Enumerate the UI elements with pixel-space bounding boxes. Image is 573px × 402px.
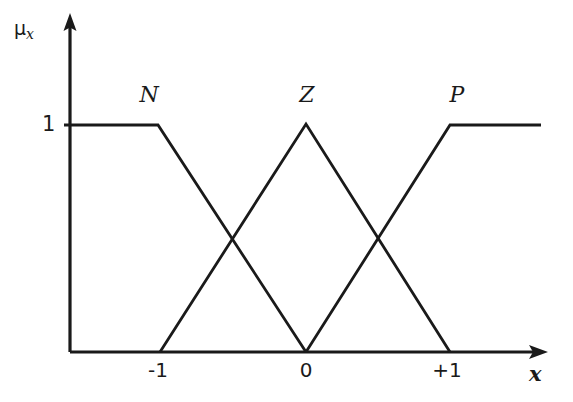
curve-N bbox=[70, 125, 306, 352]
y-axis bbox=[64, 13, 77, 352]
curve-label-Z: Z bbox=[299, 84, 314, 106]
plot-canvas bbox=[0, 0, 573, 402]
fuzzy-membership-figure: μx 1 -1 0 +1 x N Z P bbox=[0, 0, 573, 402]
x-tick-label-plus-1: +1 bbox=[432, 360, 461, 380]
y-axis-label: μx bbox=[14, 19, 34, 41]
x-tick-label-zero: 0 bbox=[300, 360, 313, 380]
curve-P bbox=[306, 125, 541, 352]
curve-label-P: P bbox=[450, 84, 465, 106]
curve-label-N: N bbox=[139, 84, 158, 106]
x-tick-label-minus-1: -1 bbox=[148, 360, 168, 380]
y-axis-label-mu: μ bbox=[14, 17, 26, 39]
y-tick-label-1: 1 bbox=[42, 114, 55, 135]
x-axis-label: x bbox=[529, 363, 542, 384]
curve-Z bbox=[160, 124, 450, 352]
y-axis-label-subscript: x bbox=[26, 26, 34, 42]
